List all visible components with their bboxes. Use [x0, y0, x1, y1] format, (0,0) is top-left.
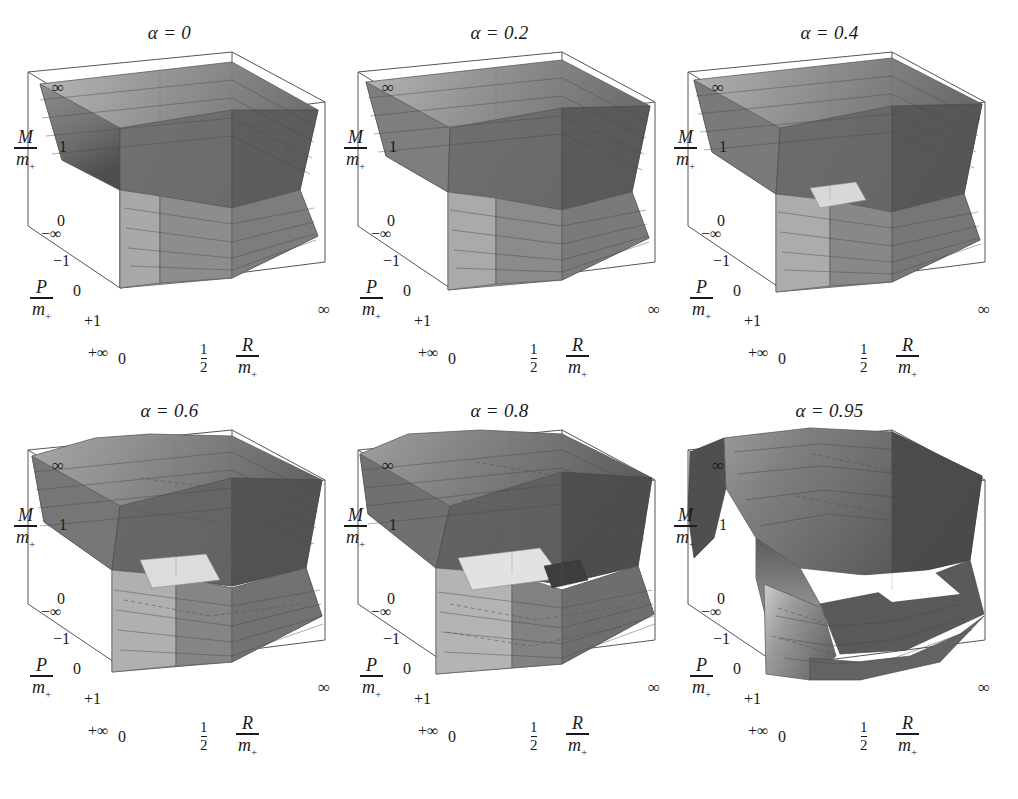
y-axis-label: Pm+: [690, 278, 713, 321]
z-axis-denominator: m+: [674, 528, 697, 550]
x-tick-half: 12: [860, 720, 868, 754]
x-tick-half: 12: [530, 342, 538, 376]
x-axis-denominator: m+: [236, 358, 259, 380]
figure-root: α = 0: [0, 0, 1018, 799]
plot-area: [0, 418, 339, 770]
x-tick-half: 12: [860, 342, 868, 376]
z-tick-1: 1: [59, 516, 67, 534]
y-tick-0: 0: [733, 660, 741, 678]
x-axis-denominator: m+: [566, 358, 589, 380]
x-axis-denominator: m+: [566, 736, 589, 758]
z-tick-1: 1: [59, 138, 67, 156]
y-tick-neg1: −1: [713, 252, 730, 270]
x-axis-numerator: R: [566, 714, 589, 732]
y-tick-pos-inf: +∞: [418, 344, 438, 362]
z-axis-numerator: M: [674, 506, 697, 524]
y-axis-denominator: m+: [690, 678, 713, 700]
plot-area: [0, 40, 339, 392]
y-tick-pos-inf: +∞: [88, 722, 108, 740]
y-axis-numerator: P: [30, 278, 53, 296]
y-tick-pos1: +1: [414, 312, 431, 330]
y-axis-denominator: m+: [30, 300, 53, 322]
x-axis-label: Rm+: [896, 714, 919, 757]
y-tick-pos1: +1: [744, 312, 761, 330]
z-tick-1: 1: [719, 516, 727, 534]
y-tick-0: 0: [403, 282, 411, 300]
z-axis-numerator: M: [344, 506, 367, 524]
x-axis-numerator: R: [896, 336, 919, 354]
x-axis-label: R m+: [236, 336, 259, 379]
y-tick-neg-inf: −∞: [371, 603, 391, 621]
y-tick-0: 0: [733, 282, 741, 300]
y-axis-numerator: P: [30, 656, 53, 674]
z-axis-label: Mm+: [14, 506, 37, 549]
x-tick-0: 0: [118, 728, 126, 746]
x-axis-numerator: R: [236, 336, 259, 354]
surface-3d-svg: [660, 40, 999, 392]
y-tick-pos1: +1: [84, 690, 101, 708]
y-tick-neg1: −1: [53, 252, 70, 270]
y-tick-neg1: −1: [383, 252, 400, 270]
x-axis-numerator: R: [566, 336, 589, 354]
z-axis-numerator: M: [344, 128, 367, 146]
x-tick-half: 12: [530, 720, 538, 754]
z-tick-1: 1: [389, 516, 397, 534]
y-tick-0: 0: [73, 282, 81, 300]
z-tick-inf: ∞: [382, 78, 394, 98]
z-axis-denominator: m+: [674, 150, 697, 172]
x-axis-numerator: R: [896, 714, 919, 732]
y-axis-numerator: P: [690, 278, 713, 296]
y-tick-neg-inf: −∞: [41, 603, 61, 621]
z-axis-numerator: M: [14, 506, 37, 524]
y-tick-pos1: +1: [414, 690, 431, 708]
y-tick-neg-inf: −∞: [701, 603, 721, 621]
plot-area: [660, 40, 999, 392]
y-axis-numerator: P: [690, 656, 713, 674]
y-tick-neg-inf: −∞: [41, 225, 61, 243]
surface-3d-svg: [0, 418, 339, 770]
z-axis-denominator: m+: [14, 150, 37, 172]
z-tick-inf: ∞: [52, 456, 64, 476]
z-tick-inf: ∞: [712, 456, 724, 476]
y-tick-pos1: +1: [84, 312, 101, 330]
surface-3d-svg: [330, 418, 669, 770]
panel-alpha-0p4: α = 0.4: [660, 0, 999, 399]
x-axis-denominator: m+: [236, 736, 259, 758]
y-axis-denominator: m+: [360, 300, 383, 322]
surface-3d-svg: [660, 418, 999, 770]
panel-alpha-0p6: α = 0.6: [0, 378, 339, 777]
y-axis-denominator: m+: [690, 300, 713, 322]
x-tick-inf: ∞: [318, 678, 330, 698]
x-tick-0: 0: [448, 728, 456, 746]
plot-area: [330, 418, 669, 770]
x-axis-denominator: m+: [896, 736, 919, 758]
x-tick-0: 0: [118, 350, 126, 368]
surface-3d-svg: [0, 40, 339, 392]
z-axis-denominator: m+: [14, 528, 37, 550]
y-tick-neg1: −1: [383, 630, 400, 648]
panel-alpha-0p95: α = 0.95: [660, 378, 999, 777]
y-tick-pos-inf: +∞: [88, 344, 108, 362]
x-tick-inf: ∞: [318, 300, 330, 320]
plot-area: [660, 418, 999, 770]
x-axis-label: Rm+: [566, 714, 589, 757]
z-tick-1: 1: [389, 138, 397, 156]
x-tick-inf: ∞: [978, 678, 990, 698]
z-axis-label: M m+: [14, 128, 37, 171]
panel-alpha-0p8: α = 0.8: [330, 378, 669, 777]
y-tick-pos-inf: +∞: [418, 722, 438, 740]
y-tick-neg-inf: −∞: [371, 225, 391, 243]
x-axis-label: Rm+: [236, 714, 259, 757]
x-axis-numerator: R: [236, 714, 259, 732]
y-tick-neg1: −1: [713, 630, 730, 648]
x-tick-inf: ∞: [648, 678, 660, 698]
y-axis-denominator: m+: [360, 678, 383, 700]
plot-area: [330, 40, 669, 392]
x-tick-half: 1 2: [200, 342, 208, 376]
y-tick-0: 0: [403, 660, 411, 678]
y-tick-neg1: −1: [53, 630, 70, 648]
x-tick-0: 0: [778, 728, 786, 746]
y-axis-label: Pm+: [360, 656, 383, 699]
y-tick-pos-inf: +∞: [748, 722, 768, 740]
y-tick-neg-inf: −∞: [701, 225, 721, 243]
